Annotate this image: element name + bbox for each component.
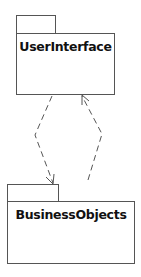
dependency-ui-to-bo [35, 96, 54, 184]
dependency-arrows [0, 0, 141, 277]
dependency-bo-to-ui [82, 95, 102, 180]
